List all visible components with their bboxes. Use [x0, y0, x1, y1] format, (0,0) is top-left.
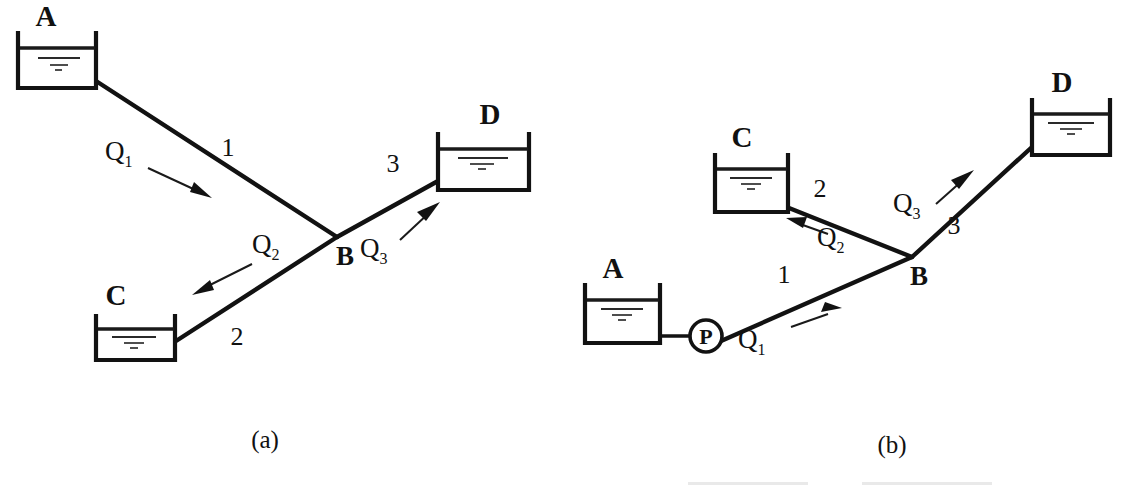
reservoir-label-d: D [480, 98, 501, 130]
reservoir-label-a: A [36, 0, 57, 32]
figure-root: A C D 1 2 3 [0, 0, 1125, 487]
flow-label-q2-sub: 2 [272, 246, 280, 263]
pump-label: P [699, 324, 712, 349]
scan-smudge-right [862, 482, 992, 485]
pipe-label-2: 2 [814, 174, 827, 203]
reservoir-label-a: A [603, 252, 624, 284]
flow-label-q3-base: Q [360, 233, 380, 263]
flow-label-q3-sub: 3 [913, 205, 921, 222]
flow-label-q3: Q3 [893, 188, 921, 222]
tank-outline [18, 33, 96, 88]
junction-label-b: B [910, 261, 928, 291]
reservoir-d-panel-a: D [438, 98, 529, 190]
scan-smudges [688, 482, 992, 485]
reservoir-c-panel-a: C [96, 279, 175, 360]
junction-label-b: B [336, 241, 354, 271]
tank-outline [585, 285, 660, 343]
reservoir-d-panel-b: D [1032, 66, 1110, 155]
flow-label-q3-sub: 3 [380, 250, 388, 267]
flow-label-q1-sub: 1 [758, 341, 766, 358]
reservoir-a-panel-b: A [585, 252, 660, 343]
reservoir-label-c: C [732, 121, 753, 153]
panel-a-pipes [96, 81, 438, 341]
scan-smudge-left [688, 482, 808, 485]
caption-panel-b: (b) [877, 431, 906, 459]
pipe-label-2: 2 [231, 322, 244, 351]
panel-a: A C D 1 2 3 [18, 0, 529, 360]
flow-label-q1-sub: 1 [125, 153, 133, 170]
reservoir-c-panel-b: C [715, 121, 788, 212]
flow-label-q1: Q1 [105, 136, 133, 170]
pipe-3-line [912, 147, 1032, 257]
flow-label-q3-base: Q [893, 188, 913, 218]
flow-label-q1-base: Q [738, 324, 758, 354]
flow-arrow-q1-head [190, 182, 212, 198]
flow-label-q1-base: Q [105, 136, 125, 166]
flow-arrow-q1-head [821, 302, 842, 312]
reservoir-a-panel-a: A [18, 0, 96, 88]
pipe-label-3: 3 [387, 149, 400, 178]
flow-label-q2-sub: 2 [837, 239, 845, 256]
flow-label-q2: Q2 [252, 229, 280, 263]
pipe-label-1: 1 [778, 260, 791, 289]
flow-q3-panel-a: Q3 [360, 202, 440, 267]
flow-label-q2-base: Q [252, 229, 272, 259]
flow-arrow-q2-head [192, 280, 214, 295]
flow-q2-panel-b: Q2 [786, 217, 845, 256]
diagram-canvas: A C D 1 2 3 [0, 0, 1125, 487]
flow-label-q1: Q1 [738, 324, 766, 358]
flow-arrow-q3-head [417, 202, 440, 221]
pipe-3-line [337, 181, 438, 237]
pump-p: P [690, 320, 722, 352]
tank-outline [438, 134, 529, 190]
pipe-label-1: 1 [222, 133, 235, 162]
flow-arrow-q3-head [951, 170, 974, 189]
flow-label-q3: Q3 [360, 233, 388, 267]
tank-outline [1032, 100, 1110, 155]
panel-b: A C D P [585, 66, 1110, 358]
pipe-label-3: 3 [948, 211, 961, 240]
caption-panel-a: (a) [251, 426, 279, 454]
flow-arrow-q1-shaft [791, 314, 828, 327]
flow-label-q2-base: Q [817, 222, 837, 252]
reservoir-label-c: C [106, 279, 127, 311]
reservoir-label-d: D [1052, 66, 1073, 98]
